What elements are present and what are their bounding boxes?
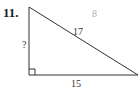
right-angle-marker-icon xyxy=(29,69,35,75)
vertical-leg-label: ? xyxy=(22,40,26,50)
faint-answer-label: 8 xyxy=(92,9,97,19)
horizontal-leg-label: 15 xyxy=(71,79,81,89)
hypotenuse-label: 17 xyxy=(73,27,83,37)
triangle-outline xyxy=(29,7,138,75)
right-triangle-figure xyxy=(0,0,139,90)
